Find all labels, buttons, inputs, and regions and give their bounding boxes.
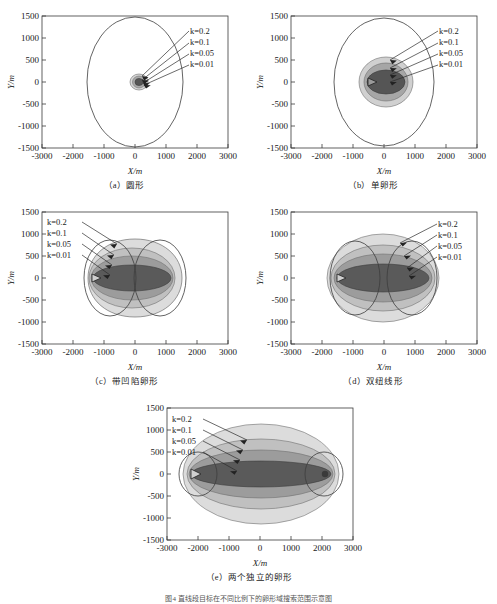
ytick-label: 0 [284,77,289,87]
k-label-01: k=0.1 [172,425,192,435]
panel-c-caption: （c）带凹陷卵形 [0,374,248,386]
panel-b-contours [334,18,434,146]
ytick-label: 1500 [270,207,289,217]
ytick-label: 1500 [21,11,40,21]
panel-e: -3000 -2000 -1000 0 1000 2000 3000 1500 … [125,394,373,570]
xtick-label: -2000 [312,347,333,357]
k-label-001: k=0.01 [190,59,214,69]
xtick-label: 1000 [406,347,425,357]
panel-a-k-labels: k=0.2 k=0.1 k=0.05 k=0.01 [190,26,214,69]
contour-k02 [337,264,429,292]
panel-e-plot: -3000 -2000 -1000 0 1000 2000 3000 1500 … [125,394,373,570]
ytick-label: 0 [284,273,289,283]
ytick-label: -500 [272,295,289,305]
xtick-label: -2000 [312,151,333,161]
panel-e-k-labels: k=0.2 k=0.1 k=0.05 k=0.01 [172,414,196,457]
ytick-label: -1000 [18,317,39,327]
panel-b-caption: （b）单卵形 [249,178,497,190]
figure-root: -3000 -2000 -1000 0 1000 2000 3000 1500 … [0,0,497,604]
y-axis-title: Y/m [6,271,16,286]
panel-c: -3000 -2000 -1000 0 1000 2000 3000 1500 … [0,198,248,374]
ytick-label: 0 [160,469,165,479]
y-axis-title: Y/m [255,271,265,286]
contour-k02 [135,78,143,85]
y-axis-title: Y/m [131,467,141,482]
panel-c-k-labels: k=0.2 k=0.1 k=0.05 k=0.01 [47,217,71,260]
x-axis-title: X/m [252,558,268,568]
ytick-label: -500 [23,295,40,305]
ytick-label: 500 [26,251,40,261]
xtick-label: 0 [258,543,263,553]
ytick-label: -500 [148,491,165,501]
ytick-label: -1000 [267,317,288,327]
ytick-label: 1000 [21,229,40,239]
xtick-label: 3000 [219,151,238,161]
k-label-02: k=0.2 [47,217,67,227]
xtick-label: 0 [382,347,387,357]
k-label-001: k=0.01 [439,59,463,69]
xtick-label: -1000 [343,151,364,161]
xtick-label: -2000 [63,347,84,357]
panel-d-caption: （d）双纽线形 [249,374,497,386]
k-label-005: k=0.05 [438,241,462,251]
x-axis-title: X/m [127,362,143,372]
xtick-label: 2000 [437,347,456,357]
xtick-label: 3000 [468,151,487,161]
ytick-label: -1500 [18,143,39,153]
panel-a-contours [87,17,183,147]
panel-a-leader-lines [142,31,189,85]
contour-k02 [93,265,171,291]
k-label-02: k=0.2 [438,219,458,229]
xtick-label: -2000 [188,543,209,553]
xtick-label: 0 [133,347,138,357]
x-axis-title: X/m [376,362,392,372]
k-label-01: k=0.1 [47,228,67,238]
xtick-label: -1000 [219,543,240,553]
contour-k02 [191,461,331,487]
x-axis-title: X/m [376,166,392,176]
panel-a: -3000 -2000 -1000 0 1000 2000 3000 1500 … [0,2,248,178]
panel-b-plot: -3000 -2000 -1000 0 1000 2000 3000 1500 … [249,2,497,178]
xtick-label: 1000 [157,347,176,357]
k-label-005: k=0.05 [172,436,196,446]
xtick-label: 0 [133,151,138,161]
ytick-label: 0 [35,77,40,87]
ytick-label: 1000 [21,33,40,43]
xtick-label: 0 [382,151,387,161]
xtick-label: 1000 [406,151,425,161]
ytick-label: -1500 [143,535,164,545]
xtick-label: 1000 [157,151,176,161]
panel-a-plot: -3000 -2000 -1000 0 1000 2000 3000 1500 … [0,2,248,178]
ytick-label: 500 [151,447,165,457]
panel-a-caption: （a）圆形 [0,178,248,190]
panel-b: -3000 -2000 -1000 0 1000 2000 3000 1500 … [249,2,497,178]
xtick-label: 2000 [313,543,332,553]
ytick-label: 1000 [270,33,289,43]
y-axis-title: Y/m [255,75,265,90]
xtick-label: 3000 [468,347,487,357]
dot-marker [322,471,328,477]
ytick-label: -1500 [267,143,288,153]
k-label-005: k=0.05 [47,239,71,249]
k-label-01: k=0.1 [439,37,459,47]
panel-d-plot: -3000 -2000 -1000 0 1000 2000 3000 1500 … [249,198,497,374]
ytick-label: -1500 [267,339,288,349]
ytick-label: 500 [275,55,289,65]
xtick-label: 2000 [188,151,207,161]
panel-c-plot: -3000 -2000 -1000 0 1000 2000 3000 1500 … [0,198,248,374]
ytick-label: -500 [23,99,40,109]
ytick-label: 500 [275,251,289,261]
xtick-label: -2000 [63,151,84,161]
xtick-label: -1000 [343,347,364,357]
k-label-01: k=0.1 [190,37,210,47]
ytick-label: 1000 [146,425,165,435]
ytick-label: 0 [35,273,40,283]
xtick-label: 1000 [282,543,301,553]
k-label-005: k=0.05 [190,48,214,58]
y-axis-title: Y/m [6,75,16,90]
k-label-001: k=0.01 [47,250,71,260]
xtick-label: -1000 [94,347,115,357]
ytick-label: 1500 [270,11,289,21]
ytick-label: -1000 [143,513,164,523]
k-label-02: k=0.2 [172,414,192,424]
